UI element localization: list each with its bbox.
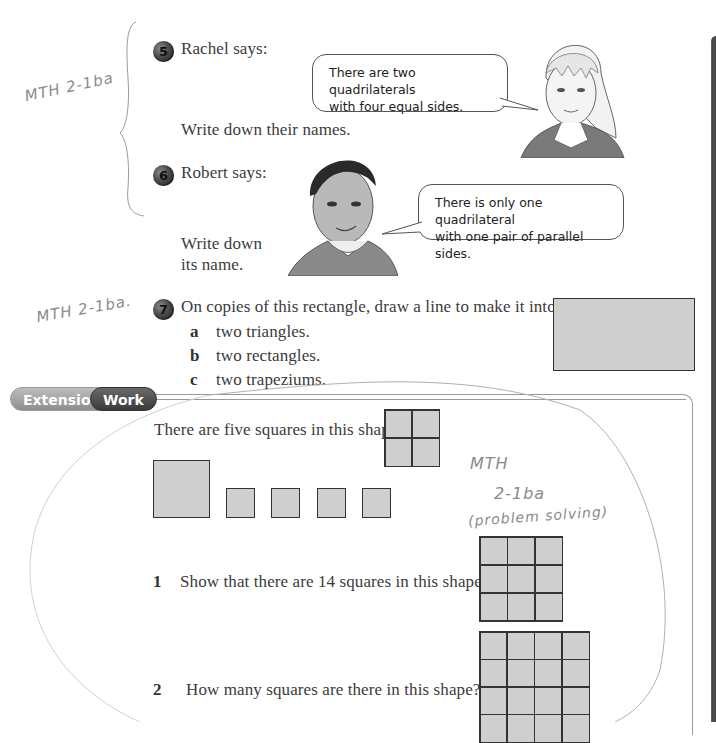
rachel-speech-line2: with four equal sides. <box>329 98 491 115</box>
grid-cell <box>481 688 507 714</box>
robert-speech-line1: There is only one quadrilateral <box>435 194 607 228</box>
grid-cell <box>413 411 439 438</box>
grid-cell <box>481 538 507 565</box>
question-6-prompt: Robert says: <box>181 163 267 183</box>
handwritten-note-right-2: 2-1ba <box>494 484 545 503</box>
extension-item-number-1: 1 <box>153 572 162 592</box>
small-square-1 <box>226 488 255 518</box>
extension-intro: There are five squares in this shape: <box>154 420 402 440</box>
grid-cell <box>563 633 589 659</box>
grid-cell <box>536 566 562 593</box>
grid-cell <box>536 538 562 565</box>
extension-item-text-1: Show that there are 14 squares in this s… <box>180 572 486 592</box>
grid-cell <box>481 633 507 659</box>
grid-cell <box>413 439 439 466</box>
grid-cell <box>535 688 561 714</box>
grid-cell <box>535 633 561 659</box>
grid-cell <box>508 594 534 621</box>
part-text-a: two triangles. <box>216 322 310 342</box>
grid-cell <box>563 660 589 686</box>
grid-cell <box>481 594 507 621</box>
part-letter-a: a <box>190 322 199 341</box>
question-6-instruction-line1: Write down <box>181 234 262 254</box>
question-number-6: 6 <box>153 165 174 186</box>
grid-cell <box>508 633 534 659</box>
handwritten-brace <box>118 18 148 218</box>
grid-cell <box>536 594 562 621</box>
grid-cell <box>508 688 534 714</box>
robert-speech-bubble: There is only one quadrilateral with one… <box>418 184 624 240</box>
robert-bubble-tail <box>380 220 424 240</box>
grid-cell <box>508 715 534 741</box>
question-number-7: 7 <box>153 299 174 320</box>
question-7-part-b: b two rectangles. <box>190 346 199 366</box>
grid-cell <box>481 715 507 741</box>
robert-portrait-image <box>288 146 398 276</box>
four-by-four-square-shape <box>479 631 590 743</box>
handwritten-note-top: MTH 2-1ba <box>23 69 115 105</box>
rachel-speech-bubble: There are two quadrilaterals with four e… <box>312 54 508 112</box>
part-letter-b: b <box>190 346 199 365</box>
rectangle-shape <box>553 298 695 371</box>
grid-cell <box>563 688 589 714</box>
grid-cell <box>386 439 412 466</box>
handwritten-note-right-1: MTH <box>470 454 509 473</box>
grid-cell <box>535 715 561 741</box>
large-square <box>153 460 210 518</box>
question-5-prompt: Rachel says: <box>181 39 268 59</box>
two-by-two-square-shape <box>384 409 440 467</box>
page-edge-tab <box>711 36 716 722</box>
part-text-b: two rectangles. <box>216 346 320 366</box>
robert-speech-line2: with one pair of parallel sides. <box>435 228 607 262</box>
grid-cell <box>386 411 412 438</box>
question-5-instruction: Write down their names. <box>181 120 351 140</box>
rachel-speech-line1: There are two quadrilaterals <box>329 64 491 98</box>
small-square-4 <box>362 488 391 518</box>
extension-item-number-2: 2 <box>153 680 162 700</box>
grid-cell <box>563 715 589 741</box>
grid-cell <box>481 660 507 686</box>
handwritten-note-middle: MTH 2-1ba. <box>35 292 133 326</box>
question-7-prompt: On copies of this rectangle, draw a line… <box>181 297 561 317</box>
grid-cell <box>508 538 534 565</box>
grid-cell <box>535 660 561 686</box>
question-number-5: 5 <box>153 41 174 62</box>
grid-cell <box>508 660 534 686</box>
small-square-2 <box>271 488 300 518</box>
rachel-portrait-image <box>516 28 626 158</box>
grid-cell <box>481 566 507 593</box>
question-6-instruction-line2: its name. <box>181 255 243 275</box>
small-square-3 <box>317 488 346 518</box>
question-7-part-a: a two triangles. <box>190 322 199 342</box>
grid-cell <box>508 566 534 593</box>
extension-item-text-2: How many squares are there in this shape… <box>186 680 480 700</box>
three-by-three-square-shape <box>479 536 563 622</box>
